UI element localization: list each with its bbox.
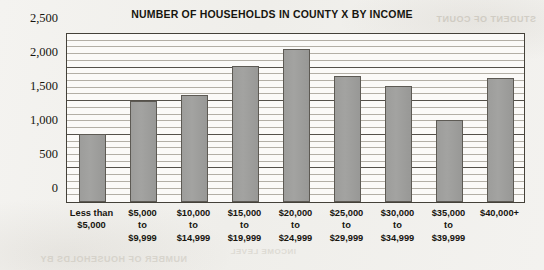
bars-layer [67,34,524,202]
x-axis-label-line: $5,000 [66,219,117,231]
bar[interactable] [130,101,157,202]
x-axis-category-label: $10,000to$14,999 [168,207,219,263]
x-axis-label-line: $19,999 [219,232,270,244]
x-axis-label-line: to [117,219,168,231]
y-axis-tick-label: 1,500 [30,79,58,94]
x-axis-label-line: to [219,219,270,231]
bar[interactable] [436,120,463,202]
x-axis-label-line: $9,999 [117,232,168,244]
bar[interactable] [334,76,361,202]
y-axis-tick-label: 1,000 [30,113,58,128]
bar[interactable] [181,95,208,202]
bar[interactable] [487,78,514,202]
bar[interactable] [232,66,259,202]
x-axis-category-label: $30,000to$34,999 [372,207,423,263]
x-axis-label-line: $14,999 [168,232,219,244]
x-axis-label-line: $29,999 [321,232,372,244]
x-axis-category-label: Less than$5,000 [66,207,117,263]
x-axis-label-line: $25,000 [321,207,372,219]
x-axis-label-line: Less than [66,207,117,219]
x-axis-label-line: to [423,219,474,231]
x-axis-label-line: $39,999 [423,232,474,244]
y-axis-tick-label: 0 [52,181,58,196]
bar[interactable] [79,134,106,202]
x-axis-category-label: $40,000+ [474,207,525,263]
y-axis-tick-label: 2,000 [30,45,58,60]
bar[interactable] [385,86,412,202]
x-axis-label-line: $20,000 [270,207,321,219]
x-axis-label-line: $40,000+ [474,207,525,219]
x-axis-category-label: $15,000to$19,999 [219,207,270,263]
x-axis-label-line: $10,000 [168,207,219,219]
x-axis-category-label: $5,000to$9,999 [117,207,168,263]
plot-area [66,33,525,203]
chart-title: NUMBER OF HOUSEHOLDS IN COUNTY X BY INCO… [0,8,544,20]
x-axis-category-label: $25,000to$29,999 [321,207,372,263]
y-axis-tick-label: 2,500 [30,11,58,26]
x-axis-labels: Less than$5,000$5,000to$9,999$10,000to$1… [66,207,525,263]
x-axis-label-line: $35,000 [423,207,474,219]
x-axis-label-line: $24,999 [270,232,321,244]
x-axis-label-line: to [270,219,321,231]
x-axis-label-line: to [168,219,219,231]
x-axis-label-line: $34,999 [372,232,423,244]
x-axis-category-label: $20,000to$24,999 [270,207,321,263]
x-axis-label-line: to [321,219,372,231]
x-axis-label-line: $5,000 [117,207,168,219]
x-axis-label-line: $30,000 [372,207,423,219]
x-axis-label-line: $15,000 [219,207,270,219]
y-axis-labels: 05001,0001,5002,0002,500 [0,33,62,203]
y-axis-tick-label: 500 [39,147,58,162]
x-axis-category-label: $35,000to$39,999 [423,207,474,263]
bar[interactable] [283,49,310,202]
x-axis-label-line: to [372,219,423,231]
bar-chart: NUMBER OF HOUSEHOLDS IN COUNTY X BY INCO… [0,0,544,270]
